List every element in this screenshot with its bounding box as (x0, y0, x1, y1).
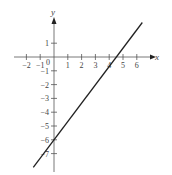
y-tick-label: −2 (40, 81, 49, 90)
y-axis-arrow-icon (52, 17, 57, 24)
plot-lines (33, 23, 142, 168)
data-line (33, 23, 142, 168)
x-tick-label: 6 (135, 61, 139, 70)
x-tick-label: 2 (80, 61, 84, 70)
x-tick-label: 1 (66, 61, 70, 70)
x-tick-label: −2 (22, 61, 31, 70)
x-tick-label: 3 (93, 61, 97, 70)
axes (14, 17, 156, 172)
y-tick-label: −5 (40, 122, 49, 131)
y-tick-label: 1 (45, 39, 49, 48)
x-axis-label: x (154, 52, 159, 62)
origin-label: 0 (46, 58, 50, 67)
y-tick-label: −7 (40, 150, 49, 159)
x-tick-label: 5 (121, 61, 125, 70)
y-tick-label: −1 (40, 67, 49, 76)
y-tick-label: −6 (40, 136, 49, 145)
y-axis-label: y (50, 7, 55, 17)
chart: −2−101234561−1−2−3−4−5−6−7 x y (0, 0, 172, 175)
y-tick-label: −3 (40, 94, 49, 103)
y-tick-label: −4 (40, 108, 49, 117)
